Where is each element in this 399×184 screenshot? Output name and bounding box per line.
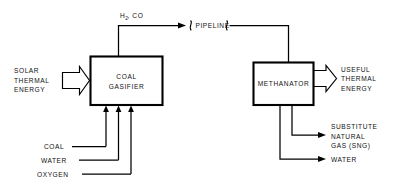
flow-diagram-canvas: COAL GASIFIER METHANATOR xyxy=(0,0,399,184)
sng-label-line3: GAS (SNG) xyxy=(331,142,370,150)
water-feed-arrowhead-icon xyxy=(116,106,122,113)
solar-thermal-energy-block-arrow-icon xyxy=(63,67,90,95)
sng-label-line2: NATURAL xyxy=(331,133,365,140)
pipeline-break-symbol-left-icon xyxy=(190,21,191,31)
coal-feed-arrowhead-icon xyxy=(103,106,109,113)
coal-feed-label: COAL xyxy=(44,143,64,150)
sng-label-line1: SUBSTITUTE xyxy=(331,123,378,130)
syngas-arrowhead-icon xyxy=(178,23,186,29)
useful-thermal-energy-line1: USEFUL xyxy=(341,66,370,73)
solar-thermal-energy-line3: ENERGY xyxy=(14,86,45,93)
water-outlet-pipe xyxy=(280,105,318,159)
solar-thermal-energy-label: SOLAR THERMAL ENERGY xyxy=(14,67,49,93)
sng-outlet-pipe xyxy=(292,105,318,135)
coal-gasifier-label-line1: COAL xyxy=(116,73,136,80)
sng-outlet-label: SUBSTITUTE NATURAL GAS (SNG) xyxy=(331,123,378,150)
oxygen-feed-label: OXYGEN xyxy=(37,171,69,178)
syngas-riser-pipe xyxy=(119,26,179,57)
water-feed-label: WATER xyxy=(41,157,67,164)
syngas-label: H 2 , CO xyxy=(120,12,143,21)
water-outlet-label: WATER xyxy=(331,156,357,163)
coal-gasifier-label-line2: GASIFIER xyxy=(109,83,145,90)
oxygen-feed-arrowhead-icon xyxy=(128,106,134,113)
solar-thermal-energy-line1: SOLAR xyxy=(14,67,39,74)
pipeline-label: PIPELINE xyxy=(196,22,230,29)
useful-thermal-energy-line3: ENERGY xyxy=(341,85,372,92)
water-outlet-arrowhead-icon xyxy=(318,156,326,162)
syngas-label-rest: , CO xyxy=(128,12,144,19)
useful-thermal-energy-label: USEFUL THERMAL ENERGY xyxy=(341,66,376,92)
useful-thermal-energy-line2: THERMAL xyxy=(341,75,376,82)
pipeline-to-methanator xyxy=(230,26,289,63)
methanator-label: METHANATOR xyxy=(258,80,310,87)
solar-thermal-energy-line2: THERMAL xyxy=(14,77,49,84)
sng-outlet-arrowhead-icon xyxy=(318,132,326,138)
coal-gasifier-box[interactable] xyxy=(91,57,163,106)
useful-thermal-energy-block-arrow-icon xyxy=(314,66,337,92)
process-flow-diagram: COAL GASIFIER METHANATOR xyxy=(0,0,399,184)
